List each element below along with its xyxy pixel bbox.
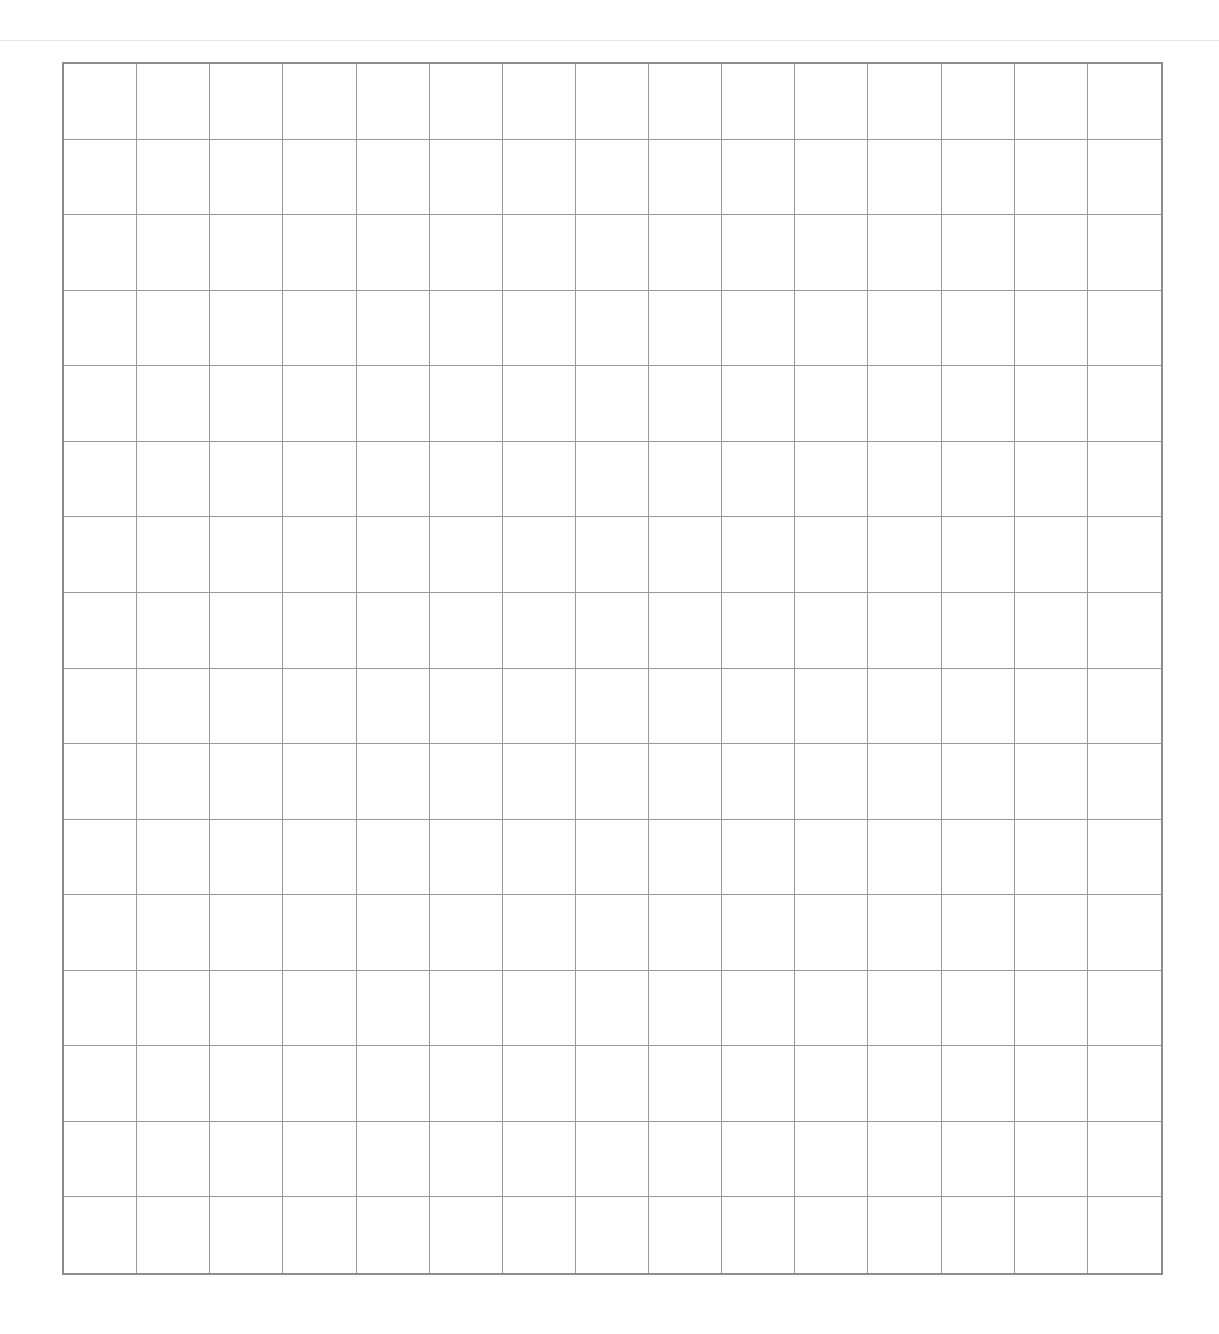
grid-cell <box>942 895 1015 971</box>
grid-cell <box>64 971 137 1047</box>
grid-cell <box>795 1122 868 1198</box>
grid-cell <box>868 669 941 745</box>
grid-cell <box>1088 366 1161 442</box>
grid-cell <box>64 1046 137 1122</box>
grid-cell <box>430 366 503 442</box>
grid-cell <box>722 971 795 1047</box>
grid-cell <box>430 1197 503 1273</box>
grid-cell <box>64 366 137 442</box>
grid-cell <box>64 442 137 518</box>
grid-cell <box>137 1046 210 1122</box>
grid-cell <box>795 820 868 896</box>
grid-cell <box>210 517 283 593</box>
grid-cell <box>722 1046 795 1122</box>
grid-cell <box>868 744 941 820</box>
grid-cell <box>795 744 868 820</box>
grid-cell <box>1088 669 1161 745</box>
grid-cell <box>868 215 941 291</box>
grid-cell <box>1088 64 1161 140</box>
grid-cell <box>868 1046 941 1122</box>
grid-cell <box>64 215 137 291</box>
grid-cell <box>576 895 649 971</box>
grid-cell <box>1088 820 1161 896</box>
grid-cell <box>1015 971 1088 1047</box>
grid-cell <box>283 517 356 593</box>
grid-cell <box>137 593 210 669</box>
grid-cell <box>137 669 210 745</box>
grid-cell <box>1015 140 1088 216</box>
grid-cell <box>1088 291 1161 367</box>
grid-cell <box>868 820 941 896</box>
grid-cell <box>942 215 1015 291</box>
grid-cell <box>210 593 283 669</box>
grid-cell <box>722 366 795 442</box>
grid-cell <box>430 215 503 291</box>
grid-cell <box>210 140 283 216</box>
grid-cell <box>1088 517 1161 593</box>
grid-cell <box>64 744 137 820</box>
grid-cell <box>649 366 722 442</box>
grid-cell <box>1088 593 1161 669</box>
grid-cell <box>210 291 283 367</box>
grid-cell <box>137 517 210 593</box>
grid-cell <box>64 64 137 140</box>
grid-cell <box>576 517 649 593</box>
grid-cell <box>795 215 868 291</box>
grid-cell <box>1088 744 1161 820</box>
grid-cell <box>503 442 576 518</box>
grid-cell <box>210 215 283 291</box>
grid-cell <box>1088 140 1161 216</box>
grid-cell <box>868 442 941 518</box>
grid-cell <box>430 895 503 971</box>
grid-cell <box>722 140 795 216</box>
grid-cell <box>283 442 356 518</box>
grid-cell <box>649 971 722 1047</box>
grid-cell <box>357 971 430 1047</box>
grid-cell <box>576 64 649 140</box>
grid-cell <box>503 140 576 216</box>
grid-cell <box>137 820 210 896</box>
grid-cell <box>1015 820 1088 896</box>
grid-cell <box>576 971 649 1047</box>
grid-cell <box>283 669 356 745</box>
grid-cell <box>503 215 576 291</box>
grid-cell <box>1088 1197 1161 1273</box>
grid-cell <box>649 744 722 820</box>
grid-cell <box>1015 1122 1088 1198</box>
grid-cell <box>283 1197 356 1273</box>
grid-cell <box>210 971 283 1047</box>
grid-cell <box>1015 895 1088 971</box>
grid-cell <box>795 895 868 971</box>
grid-cell <box>283 215 356 291</box>
grid-cell <box>576 1046 649 1122</box>
grid-cell <box>430 820 503 896</box>
grid-cell <box>283 820 356 896</box>
grid-cell <box>503 820 576 896</box>
grid-cell <box>137 744 210 820</box>
grid-cell <box>942 669 1015 745</box>
grid-cell <box>795 64 868 140</box>
grid-cell <box>64 1122 137 1198</box>
grid-cell <box>64 895 137 971</box>
grid-cell <box>64 517 137 593</box>
grid-cell <box>942 64 1015 140</box>
grid-cell <box>649 895 722 971</box>
grid-cell <box>1015 291 1088 367</box>
grid-cell <box>430 64 503 140</box>
grid-cell <box>649 215 722 291</box>
grid-cell <box>868 1197 941 1273</box>
grid-cell <box>576 744 649 820</box>
grid-cell <box>210 1122 283 1198</box>
grid-cell <box>210 895 283 971</box>
grid-cell <box>1015 1046 1088 1122</box>
grid-cell <box>722 820 795 896</box>
grid-cell <box>503 517 576 593</box>
grid-cell <box>649 64 722 140</box>
grid-cell <box>357 366 430 442</box>
grid-cell <box>283 1122 356 1198</box>
grid-cell <box>283 291 356 367</box>
grid-cell <box>137 895 210 971</box>
grid-cell <box>868 140 941 216</box>
grid-cell <box>210 669 283 745</box>
grid-cell <box>942 140 1015 216</box>
